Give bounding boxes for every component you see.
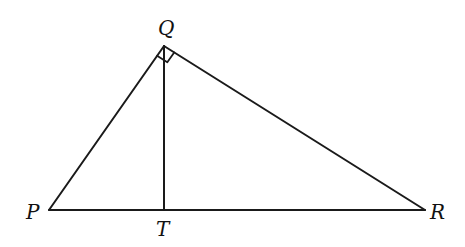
label-Q: Q <box>158 16 174 40</box>
label-R: R <box>429 200 445 224</box>
triangle-diagram: Q P T R <box>0 0 465 247</box>
label-T: T <box>156 217 171 241</box>
segment-QR <box>164 46 425 210</box>
label-P: P <box>25 200 40 224</box>
segment-PQ <box>49 46 164 210</box>
